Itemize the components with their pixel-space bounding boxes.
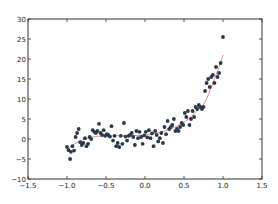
y-tick-label: 5: [22, 116, 26, 124]
x-tick-label: 1.5: [256, 182, 267, 190]
y-tick-label: −5: [16, 156, 26, 164]
data-point: [184, 115, 188, 119]
data-point: [138, 130, 142, 134]
data-point: [208, 85, 212, 89]
data-point: [77, 127, 81, 131]
data-point: [96, 129, 100, 133]
data-point: [141, 142, 145, 146]
data-point: [159, 131, 163, 135]
data-point: [142, 134, 146, 138]
data-point: [213, 81, 217, 85]
data-point: [125, 139, 129, 143]
x-tick-label: 0.0: [139, 182, 150, 190]
y-tick-label: 15: [17, 76, 26, 84]
y-tick-label: 25: [17, 36, 26, 44]
data-point: [81, 141, 85, 145]
data-point: [102, 128, 106, 132]
data-point: [195, 107, 199, 111]
data-point: [86, 142, 90, 146]
data-point: [216, 75, 220, 79]
data-point: [203, 89, 207, 93]
data-point: [83, 136, 87, 140]
data-point: [191, 109, 195, 113]
data-point: [108, 135, 112, 139]
data-point: [161, 141, 165, 145]
data-point: [202, 105, 206, 109]
data-point: [147, 128, 151, 132]
data-point: [97, 122, 101, 126]
data-point: [189, 117, 193, 121]
data-point: [163, 125, 167, 129]
data-point: [89, 137, 93, 141]
y-tick-label: 0: [22, 136, 26, 144]
data-point: [117, 145, 121, 149]
data-point: [166, 119, 170, 123]
data-point: [68, 157, 72, 161]
data-point: [152, 144, 156, 148]
data-point: [75, 131, 79, 135]
x-tick-label: −1.0: [59, 182, 76, 190]
data-point: [206, 77, 210, 81]
data-point: [113, 134, 117, 138]
data-point: [188, 123, 192, 127]
data-point: [158, 136, 162, 140]
data-point: [219, 61, 223, 65]
data-point: [178, 125, 182, 129]
y-tick-label: 10: [17, 96, 26, 104]
y-tick-label: 20: [17, 56, 26, 64]
data-point: [116, 141, 120, 145]
data-point: [150, 132, 154, 136]
data-point: [149, 136, 153, 140]
data-point: [131, 135, 135, 139]
data-point: [72, 149, 76, 153]
data-point: [214, 65, 218, 69]
data-point: [119, 134, 123, 138]
data-point: [181, 123, 185, 127]
data-point: [155, 133, 159, 137]
data-point: [74, 135, 78, 139]
y-tick-label: 30: [17, 16, 26, 24]
x-tick-label: −0.5: [98, 182, 115, 190]
data-point: [71, 144, 75, 148]
data-point: [186, 109, 190, 113]
data-point: [153, 129, 157, 133]
data-point: [205, 81, 209, 85]
data-point: [192, 115, 196, 119]
data-point: [122, 121, 126, 125]
data-point: [183, 111, 187, 115]
x-tick-label: 1.0: [217, 182, 228, 190]
data-point: [170, 123, 174, 127]
data-point: [133, 143, 137, 147]
scatter-chart: −1.5−1.0−0.50.00.51.01.5 302520151050−5−…: [0, 0, 278, 204]
data-point: [130, 131, 134, 135]
data-point: [120, 142, 124, 146]
data-point: [211, 73, 215, 77]
data-point: [110, 124, 114, 128]
data-point: [217, 71, 221, 75]
data-point: [177, 129, 181, 133]
data-point: [111, 139, 115, 143]
data-point: [172, 117, 176, 121]
y-tick-label: −10: [11, 176, 26, 184]
x-tick-label: 0.5: [178, 182, 189, 190]
data-point: [221, 35, 225, 39]
plot-area: [28, 19, 262, 179]
data-point: [164, 132, 168, 136]
